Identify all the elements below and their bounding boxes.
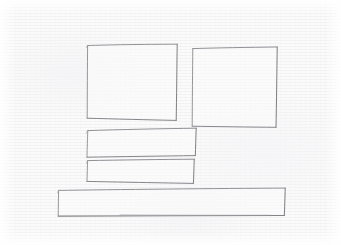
- box-right-edge-left: [192, 49, 193, 127]
- bar-wide-fill: [58, 188, 285, 216]
- box-left-fill: [87, 44, 177, 120]
- bar-upper-fill: [87, 128, 196, 157]
- bar-wide-edge-bottom: [58, 215, 284, 216]
- sketch-canvas: [0, 0, 341, 245]
- wireframe-sketch-drawing: [0, 0, 341, 245]
- sketch-shape-box-left[interactable]: [87, 44, 178, 120]
- box-right-fill: [192, 47, 277, 127]
- sketch-shape-box-right[interactable]: [192, 47, 277, 127]
- sketch-shape-bar-wide[interactable]: [58, 188, 286, 216]
- sketch-shape-bar-upper[interactable]: [86, 128, 196, 157]
- sketch-shape-bar-lower[interactable]: [87, 159, 195, 183]
- bar-lower-edge-left: [87, 161, 88, 182]
- bar-lower-fill: [87, 159, 194, 183]
